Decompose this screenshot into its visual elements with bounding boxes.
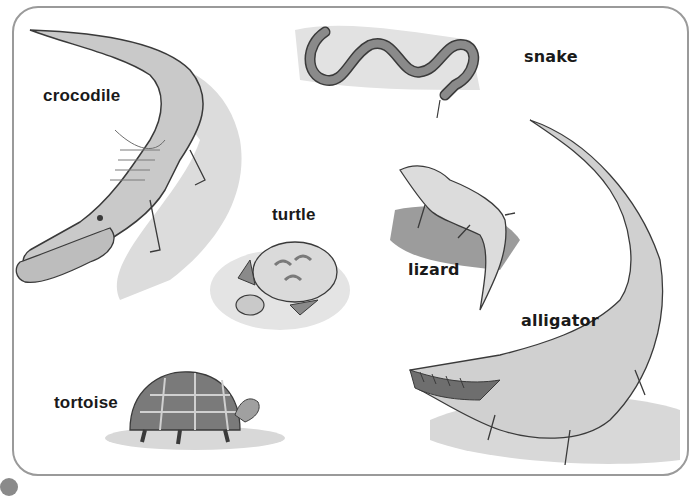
label-tortoise: tortoise (54, 393, 118, 413)
label-alligator: alligator (521, 311, 599, 330)
label-lizard: lizard (408, 260, 460, 279)
lizard-illustration (390, 166, 520, 310)
label-crocodile: crocodile (43, 86, 120, 106)
page-corner-mark (0, 478, 18, 496)
turtle-illustration (210, 242, 350, 330)
label-turtle: turtle (272, 205, 316, 225)
tortoise-illustration (105, 372, 285, 450)
crocodile-illustration (16, 30, 241, 300)
snake-illustration (295, 26, 480, 118)
alligator-illustration (410, 120, 680, 465)
label-snake: snake (524, 47, 578, 66)
